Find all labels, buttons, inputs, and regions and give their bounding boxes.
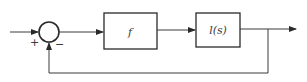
feedback-block-diagram: + − f l(s) bbox=[0, 0, 307, 82]
plus-sign: + bbox=[30, 36, 39, 49]
block-l-s-label: l(s) bbox=[209, 24, 227, 37]
minus-sign: − bbox=[55, 38, 64, 51]
